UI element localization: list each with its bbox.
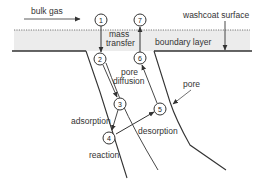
catalyst-pore-diagram: bulk gas washcoat surface boundary layer… bbox=[0, 0, 263, 179]
pore-pointer-arrow bbox=[173, 90, 191, 104]
step-1-marker: 1 bbox=[95, 14, 107, 26]
step-4-marker: 4 bbox=[103, 132, 115, 144]
step-5-marker: 5 bbox=[154, 103, 166, 115]
adsorption-label: adsorption bbox=[71, 116, 111, 126]
svg-text:7: 7 bbox=[138, 17, 142, 24]
svg-text:6: 6 bbox=[138, 55, 142, 62]
svg-text:3: 3 bbox=[118, 101, 122, 108]
svg-text:1: 1 bbox=[99, 17, 103, 24]
step-2-marker: 2 bbox=[94, 53, 106, 65]
reaction-label: reaction bbox=[89, 150, 120, 160]
boundary-layer-label: boundary layer bbox=[155, 37, 211, 47]
step-7-marker: 7 bbox=[134, 14, 146, 26]
bulk-gas-label: bulk gas bbox=[31, 6, 63, 16]
svg-text:5: 5 bbox=[158, 106, 162, 113]
pore-label: pore bbox=[183, 79, 200, 89]
washcoat-surface-label: washcoat surface bbox=[182, 10, 249, 20]
svg-text:2: 2 bbox=[98, 56, 102, 63]
step-6-marker: 6 bbox=[134, 52, 146, 64]
mass-transfer-label-2: transfer bbox=[106, 38, 135, 48]
desorption-label: desorption bbox=[138, 126, 178, 136]
svg-text:4: 4 bbox=[107, 135, 111, 142]
pore-diffusion-label-2: diffusion bbox=[113, 76, 145, 86]
step-3-marker: 3 bbox=[114, 98, 126, 110]
arrow-3-to-4 bbox=[112, 110, 118, 130]
